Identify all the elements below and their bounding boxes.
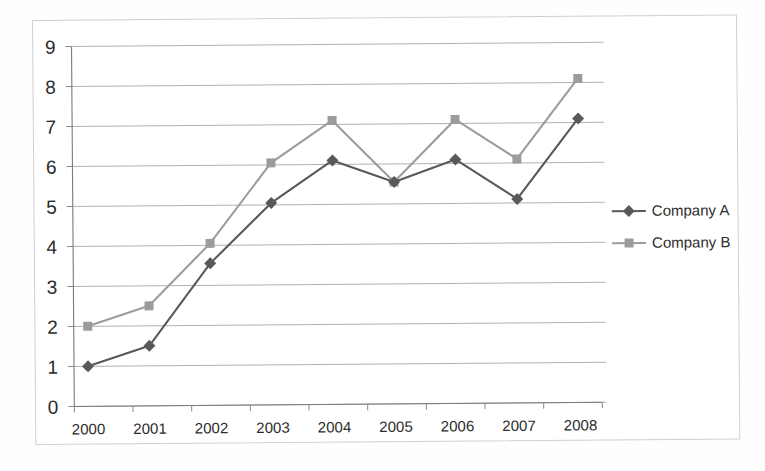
y-tick-label: 6 [46,157,57,178]
data-point-marker-diamond [623,205,635,217]
y-tick-label: 1 [47,357,58,378]
y-tick-label: 8 [45,77,56,98]
x-tick-label: 2003 [256,419,290,436]
data-point-marker-square [512,154,521,163]
x-tick-label: 2006 [441,417,475,434]
y-tick-label: 4 [46,237,57,258]
gridlines [72,42,607,406]
x-tick-label: 2002 [195,419,229,436]
gridline [74,322,606,326]
data-point-marker-square [145,301,154,310]
x-tick-label: 2000 [72,420,106,437]
y-axis-tick-labels: 0123456789 [45,37,59,418]
x-tick-label: 2005 [379,418,413,435]
series-company-b [81,74,584,331]
x-axis-line [74,402,602,406]
data-point-marker-diamond [82,360,94,372]
chart-svg: 0123456789 20002001200220032004200520062… [0,0,765,471]
y-tick-label: 9 [45,37,56,58]
x-tick-label: 2008 [564,416,598,433]
data-point-marker-square [83,322,92,331]
gridline [74,362,606,366]
x-tick-label: 2001 [133,420,167,437]
y-tick-label: 3 [47,277,58,298]
gridline [73,242,605,246]
gridline [73,282,605,286]
y-axis-line [72,46,75,406]
gridline [73,202,605,206]
series-company-a [80,112,586,372]
chart-legend: Company ACompany B [612,201,731,251]
legend-marker [625,239,634,248]
gridline [72,82,604,86]
legend-label: Company A [652,201,730,219]
x-axis-ticks [74,402,602,412]
x-tick-label: 2007 [502,417,536,434]
x-axis-tick-labels: 200020012002200320042005200620072008 [72,416,597,437]
data-point-marker-square [266,158,275,167]
legend-label: Company B [652,233,731,251]
y-tick-label: 5 [46,197,57,218]
legend-marker [623,205,635,217]
scanned-page: 0123456789 20002001200220032004200520062… [0,0,765,471]
data-point-marker-square [625,239,634,248]
x-tick-label: 2004 [318,418,352,435]
y-tick-label: 0 [48,397,59,418]
data-point-marker-square [206,239,215,248]
series-line [86,78,580,326]
data-point-marker-square [451,115,460,124]
y-tick-label: 2 [47,317,58,338]
gridline [72,42,604,46]
y-tick-label: 7 [45,117,56,138]
line-chart: 0123456789 20002001200220032004200520062… [0,0,765,471]
data-point-marker-square [328,116,337,125]
data-point-marker-square [573,74,582,83]
